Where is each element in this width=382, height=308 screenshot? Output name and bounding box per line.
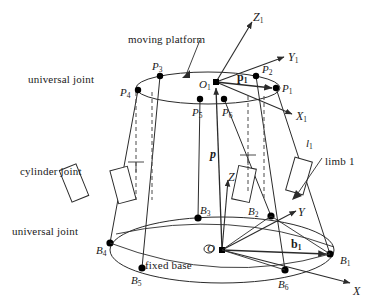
point-label-P3-base: P (152, 60, 159, 72)
point-label-B4-sub: 4 (103, 249, 107, 258)
point-label-P2: P2 (262, 64, 272, 77)
axis-label-Z1: Z1 (253, 11, 263, 25)
origin-label-O1: O1 (199, 79, 211, 92)
point-label-B1-base: B (340, 254, 347, 266)
annotation-fixed-base: fixed base (145, 260, 192, 271)
point-label-B4: B4 (96, 245, 106, 258)
origin-label-O1-base: O (199, 78, 207, 90)
tick-left (128, 162, 144, 172)
origin-label-O-base: O (207, 242, 215, 254)
origin-label-O: O (207, 243, 215, 254)
node-P1 (273, 85, 279, 91)
point-label-B1: B1 (340, 255, 350, 268)
point-label-P4: P4 (120, 87, 130, 100)
vector-label-b1-base: b (291, 237, 298, 251)
limb-line-5 (142, 76, 160, 268)
axis-label-X1-sub: 1 (303, 115, 307, 124)
vector-label-p1-base: p (237, 70, 244, 84)
point-label-P6-base: P (222, 106, 229, 118)
point-label-P5-base: P (192, 106, 199, 118)
point-label-P5-sub: 5 (199, 111, 203, 120)
cylinder-block-limb-3 (110, 166, 136, 204)
annotation-universal-joint-bottom: universal joint (12, 226, 78, 237)
point-label-B3: B3 (200, 205, 210, 218)
node-P4 (135, 87, 141, 93)
axis-label-Z1-base: Z (253, 10, 260, 24)
point-label-B5-base: B (131, 274, 138, 286)
leader-head-moving-platform (182, 70, 190, 78)
annotation-moving-platform: moving platform (128, 34, 205, 45)
axis-Y1 (216, 57, 284, 82)
limb-line-6 (110, 90, 138, 243)
axis-label-X: X (353, 285, 360, 297)
vector-b1-arrow (222, 250, 326, 254)
point-label-B2: B2 (248, 206, 258, 219)
axis-label-Y1-base: Y (288, 50, 295, 64)
vector-label-p1: p1 (237, 71, 247, 85)
tick-right (240, 155, 256, 165)
projection-tick-marks (128, 155, 256, 172)
point-label-B6-base: B (278, 278, 285, 290)
cylinder-block-limb-2 (232, 166, 257, 203)
axis-label-Y1: Y1 (288, 51, 298, 65)
vector-label-p: p (210, 148, 216, 160)
axis-label-Z1-sub: 1 (260, 16, 264, 25)
vector-label-p1-sub: 1 (244, 76, 248, 85)
point-label-B2-base: B (248, 205, 255, 217)
origin-label-O1-sub: 1 (207, 83, 211, 92)
limb-length-label-l1-sub: 1 (309, 142, 313, 151)
chord-O-B2 (222, 216, 271, 250)
axis-label-X1: X1 (296, 110, 307, 124)
axis-Z (222, 180, 228, 250)
axis-label-Z-base: Z (228, 170, 235, 184)
point-label-P4-base: P (120, 86, 127, 98)
point-label-B1-sub: 1 (347, 259, 351, 268)
cylinder-block-limb-1 (286, 157, 313, 195)
leader-moving-platform (186, 40, 200, 75)
annotation-cylinder-joint: cylinder joint (20, 166, 82, 177)
point-label-P2-base: P (262, 63, 269, 75)
point-label-P6: P6 (222, 107, 232, 120)
vector-label-p-base: p (210, 147, 216, 161)
point-label-P3: P3 (152, 61, 162, 74)
axis-label-Y1-sub: 1 (295, 56, 299, 65)
axis-label-Z: Z (228, 171, 235, 183)
point-label-P1-base: P (282, 82, 289, 94)
node-P6 (221, 96, 227, 102)
axis-label-Y: Y (298, 206, 305, 218)
figure-canvas: moving platform universal joint cylinder… (0, 0, 382, 308)
point-label-B2-sub: 2 (255, 210, 259, 219)
axis-label-Y-base: Y (298, 205, 305, 219)
limb-length-label-l1: l1 (306, 138, 313, 151)
point-label-P6-sub: 6 (229, 111, 233, 120)
point-label-P1: P1 (282, 83, 292, 96)
point-label-B3-base: B (200, 204, 207, 216)
point-label-B5-sub: 5 (138, 279, 142, 288)
point-label-B5: B5 (131, 275, 141, 288)
node-P5 (197, 96, 203, 102)
node-P2 (253, 73, 259, 79)
vector-label-b1: b1 (291, 238, 301, 252)
point-label-B6-sub: 6 (285, 283, 289, 292)
axis-label-X-base: X (353, 284, 360, 298)
annotation-universal-joint-top: universal joint (28, 74, 94, 85)
point-label-B4-base: B (96, 244, 103, 256)
point-label-P2-sub: 2 (269, 68, 273, 77)
vector-label-b1-sub: 1 (298, 243, 302, 252)
point-label-P4-sub: 4 (127, 91, 131, 100)
point-label-B3-sub: 3 (207, 209, 211, 218)
point-label-P3-sub: 3 (159, 65, 163, 74)
point-label-P1-sub: 1 (289, 87, 293, 96)
point-label-P5: P5 (192, 107, 202, 120)
annotation-limb-1: limb 1 (325, 156, 355, 167)
node-O1 (213, 79, 219, 85)
point-label-B6: B6 (278, 279, 288, 292)
